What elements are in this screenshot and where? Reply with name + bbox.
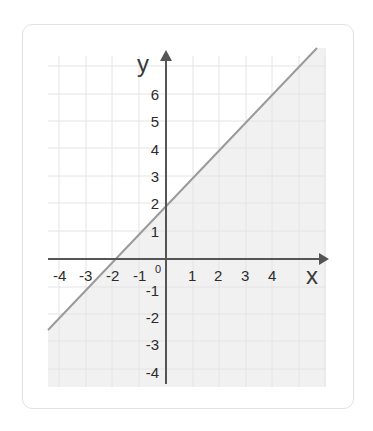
- y-tick: -4: [146, 364, 159, 381]
- y-tick: 1: [151, 223, 159, 240]
- y-axis-label: y: [137, 50, 149, 77]
- coordinate-plane: y x 0 -4 -3 -2 -1 1 2 3 4 6 5 4 3 2 1 -1…: [0, 0, 373, 431]
- y-axis-arrow-icon: [160, 50, 172, 61]
- x-tick: -2: [106, 267, 119, 284]
- shaded-region: [48, 48, 326, 387]
- x-axis-label: x: [306, 262, 318, 289]
- x-tick: 3: [241, 267, 249, 284]
- y-tick: 5: [151, 113, 159, 130]
- x-tick: -1: [133, 267, 146, 284]
- y-tick: 6: [151, 86, 159, 103]
- x-tick: -4: [53, 267, 66, 284]
- y-tick: -1: [146, 282, 159, 299]
- y-tick: 2: [151, 195, 159, 212]
- y-tick: 3: [151, 168, 159, 185]
- x-tick: 4: [268, 267, 276, 284]
- y-tick: 4: [151, 141, 159, 158]
- y-tick: -2: [146, 309, 159, 326]
- x-tick: -3: [79, 267, 92, 284]
- x-tick: 2: [214, 267, 222, 284]
- x-tick: 1: [188, 267, 196, 284]
- y-tick: -3: [146, 336, 159, 353]
- origin-label: 0: [155, 263, 161, 275]
